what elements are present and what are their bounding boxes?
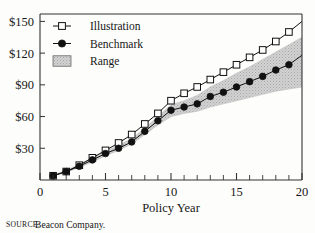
legend-marker-filled-circle — [58, 40, 65, 47]
data-point — [246, 78, 253, 85]
data-point — [207, 76, 214, 83]
data-point — [220, 69, 227, 76]
data-point — [207, 93, 214, 100]
data-point — [233, 61, 240, 68]
data-point — [273, 67, 280, 74]
data-point — [76, 163, 83, 170]
x-axis-title: Policy Year — [142, 201, 200, 215]
data-point — [115, 145, 122, 152]
data-point — [220, 89, 227, 96]
data-point — [63, 168, 70, 175]
data-point — [128, 131, 135, 138]
data-point — [155, 117, 162, 124]
data-point — [286, 29, 293, 36]
chart-svg: $30$60$90$120$150 05101520 Policy Year I… — [0, 0, 315, 233]
legend-marker-open-square — [59, 23, 66, 30]
data-point — [168, 107, 175, 114]
y-tick-label: $90 — [15, 78, 34, 92]
y-tick-label: $120 — [9, 47, 34, 61]
data-point — [194, 84, 201, 91]
legend-label: Range — [90, 55, 119, 68]
x-tick-label: 10 — [165, 185, 178, 199]
data-point — [233, 84, 240, 91]
figure-container: $30$60$90$120$150 05101520 Policy Year I… — [0, 0, 315, 233]
legend-label: Benchmark — [90, 38, 143, 50]
data-point — [273, 38, 280, 45]
y-tick-label: $150 — [9, 15, 34, 29]
x-tick-label: 5 — [102, 185, 108, 199]
data-point — [142, 128, 149, 135]
x-tick-label: 0 — [37, 185, 43, 199]
data-point — [181, 90, 188, 97]
data-point — [168, 97, 175, 104]
data-point — [128, 139, 135, 146]
data-point — [246, 54, 253, 61]
data-point — [155, 110, 162, 117]
data-point — [194, 101, 201, 108]
x-tick-label: 15 — [230, 185, 243, 199]
y-tick-label: $30 — [15, 142, 34, 156]
data-point — [259, 73, 266, 80]
source-text: Beacon Company. — [35, 219, 105, 230]
data-point — [142, 121, 149, 128]
y-tick-label: $60 — [15, 110, 34, 124]
data-point — [89, 157, 96, 164]
legend-marker-shaded-swatch — [53, 56, 71, 66]
data-point — [286, 61, 293, 68]
data-point — [259, 47, 266, 54]
data-point — [102, 150, 109, 157]
x-tick-label: 20 — [296, 185, 309, 199]
legend-label: Illustration — [90, 20, 141, 32]
data-point — [181, 104, 188, 111]
